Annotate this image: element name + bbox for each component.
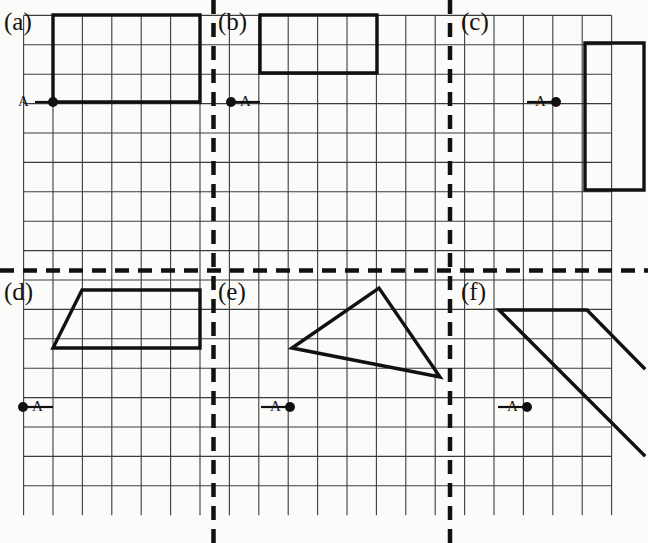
panel-a [35, 15, 200, 107]
shape-f-open-parallelogram [499, 310, 644, 455]
shape-e-triangle [292, 288, 440, 377]
point-marker-f [522, 402, 532, 412]
panel-label-a: (a) [4, 8, 32, 36]
point-label-f: A [507, 398, 518, 415]
point-marker-c [551, 97, 561, 107]
shape-b-rectangle [260, 15, 377, 73]
point-label-c: A [535, 93, 546, 110]
point-marker-a [48, 97, 58, 107]
point-label-d: A [32, 398, 43, 415]
panel-label-c: (c) [461, 8, 489, 36]
panel-d [18, 290, 200, 412]
point-label-b: A [240, 93, 251, 110]
point-marker-d [18, 402, 28, 412]
panel-c [527, 43, 644, 190]
figure-canvas [0, 0, 648, 543]
panel-label-f: (f) [461, 278, 486, 306]
grid-lines [24, 15, 612, 515]
point-marker-e [285, 402, 295, 412]
panel-label-e: (e) [218, 278, 246, 306]
panel-label-b: (b) [218, 8, 247, 36]
point-label-a: A [18, 93, 29, 110]
shape-a-rectangle [53, 15, 200, 102]
point-marker-b [226, 97, 236, 107]
grid-worksheet-figure: (a)A(b)A(c)A(d)A(e)A(f)A [0, 0, 648, 543]
panel-f [498, 310, 644, 455]
panel-dividers [0, 0, 648, 543]
panel-label-d: (d) [4, 278, 33, 306]
point-label-e: A [270, 398, 281, 415]
shape-c-rectangle [585, 43, 644, 190]
